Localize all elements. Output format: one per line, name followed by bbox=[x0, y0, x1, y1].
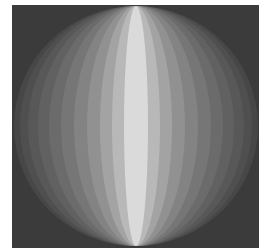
sphere-band bbox=[124, 6, 148, 246]
image-frame: Shaded sphere rendered as vertical lune … bbox=[12, 5, 259, 248]
shaded-sphere bbox=[12, 5, 259, 248]
